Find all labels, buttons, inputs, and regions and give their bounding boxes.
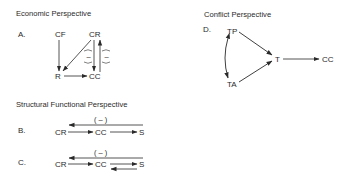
c-feedback-sign: ( – ) [94, 148, 108, 157]
node-ta: TA [227, 80, 237, 89]
node-cf: CF [55, 30, 66, 39]
conflict-title: Conflict Perspective [204, 10, 271, 19]
structural-c: C. ( – ) CR CC S [18, 148, 144, 169]
structural-title: Structural Functional Perspective [16, 100, 127, 109]
node-t: T [275, 55, 280, 64]
node-tp: TP [227, 27, 237, 36]
node-r: R [55, 72, 61, 81]
c-node-cr: CR [55, 160, 67, 169]
node-cc: CC [322, 55, 334, 64]
node-cc: CC [89, 72, 101, 81]
svg-text:–: – [87, 52, 92, 61]
economic-label: A. [18, 30, 26, 39]
negative-sign-2: – [102, 50, 110, 64]
c-node-cc: CC [95, 160, 107, 169]
node-cr: CR [89, 30, 101, 39]
negative-sign-1: – [84, 50, 92, 64]
b-node-cc: CC [95, 128, 107, 137]
conflict-panel: Conflict Perspective D. TP T TA CC [203, 10, 334, 89]
edge-tp-t [239, 32, 272, 55]
perspective-diagrams: Economic Perspective A. CF CR R CC – – C… [0, 0, 348, 178]
economic-title: Economic Perspective [16, 9, 91, 18]
structural-panel: Structural Functional Perspective B. ( –… [16, 100, 144, 169]
b-node-s: S [139, 128, 144, 137]
edge-tp-ta [225, 38, 228, 78]
b-feedback-sign: ( – ) [94, 115, 108, 124]
c-label: C. [18, 158, 26, 167]
structural-b: B. ( – ) CR CC S [18, 115, 144, 137]
edge-ta-t [239, 61, 272, 82]
svg-text:–: – [105, 52, 110, 61]
conflict-label: D. [203, 25, 211, 34]
economic-panel: Economic Perspective A. CF CR R CC – – [16, 9, 110, 81]
b-label: B. [18, 126, 26, 135]
b-node-cr: CR [55, 128, 67, 137]
c-node-s: S [139, 160, 144, 169]
